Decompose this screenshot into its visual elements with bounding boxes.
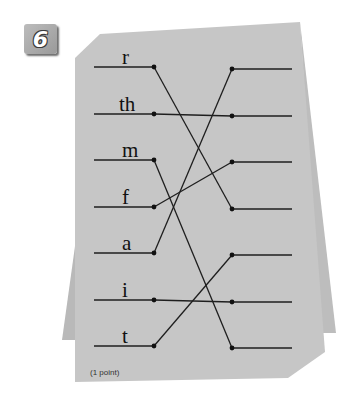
left-dot	[152, 205, 157, 210]
letter-label: f	[122, 187, 129, 208]
letter-label: t	[122, 326, 128, 347]
left-dot	[152, 158, 157, 163]
letter-label: a	[122, 233, 131, 254]
letter-label: i	[122, 280, 128, 301]
letter-label: r	[122, 47, 129, 68]
right-dot	[230, 67, 235, 72]
letter-label: th	[119, 94, 135, 115]
points-label: (1 point)	[90, 368, 119, 377]
left-dot	[152, 344, 157, 349]
left-dot	[152, 298, 157, 303]
right-dot	[230, 253, 235, 258]
letter-label: m	[122, 140, 138, 161]
left-dot	[152, 65, 157, 70]
right-dot	[230, 346, 235, 351]
left-dot	[152, 251, 157, 256]
right-dot	[230, 114, 235, 119]
left-dot	[152, 112, 157, 117]
right-dot	[230, 300, 235, 305]
worksheet	[0, 0, 359, 406]
right-dot	[230, 160, 235, 165]
right-dot	[230, 207, 235, 212]
paper-main	[75, 22, 325, 382]
